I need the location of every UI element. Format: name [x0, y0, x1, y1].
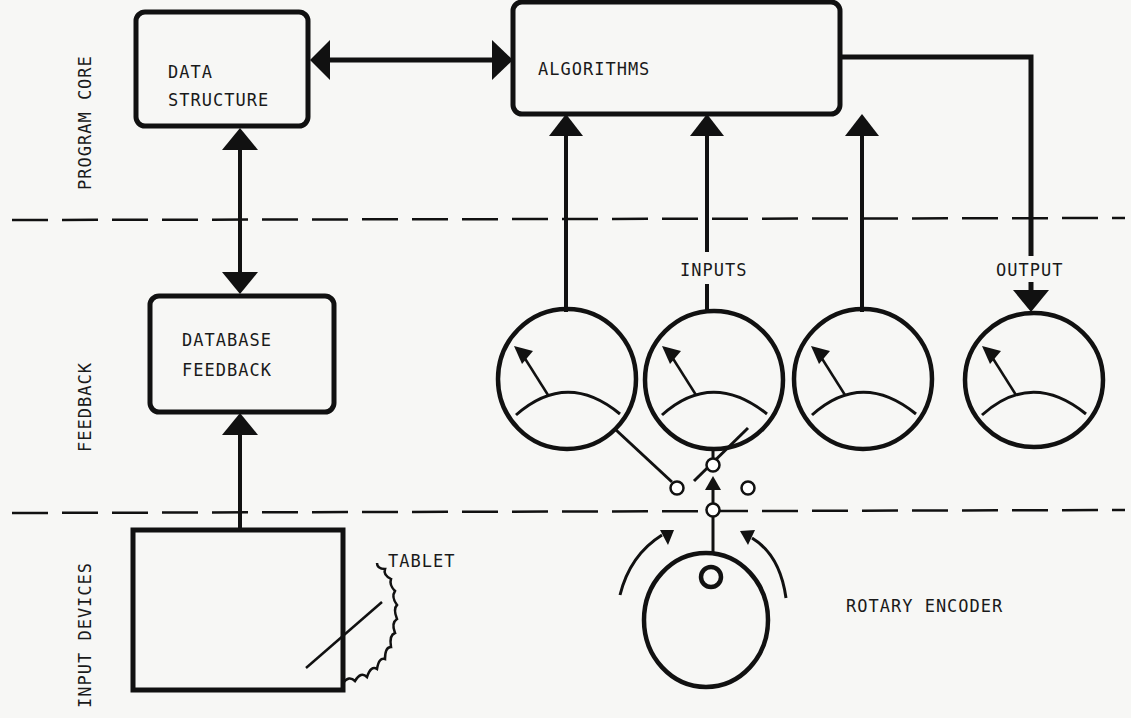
layer-label-feedback: FEEDBACK [75, 362, 95, 452]
rotary-encoder-label: ROTARY ENCODER [846, 596, 1003, 616]
output-label: OUTPUT [996, 260, 1063, 280]
arrowhead-up-icon [222, 128, 258, 150]
data-structure-box: DATA STRUCTURE [136, 12, 308, 126]
layer-divider-top [12, 218, 1125, 220]
algorithms-box: ALGORITHMS [513, 2, 840, 114]
data-structure-line2: STRUCTURE [168, 90, 269, 110]
tablet-device: TABLET [133, 530, 455, 690]
data-structure-line1: DATA [168, 62, 213, 82]
ds-alg-bidirectional-arrow [310, 40, 513, 80]
arrowhead-up-icon [705, 476, 721, 490]
arrowhead-right-icon [492, 40, 513, 80]
database-feedback-line2: FEEDBACK [182, 360, 272, 380]
arrowhead-up-icon [845, 114, 879, 136]
layer-label-program-core: PROGRAM CORE [75, 55, 95, 190]
needle-icon [982, 346, 1001, 364]
inputs-label: INPUTS [680, 260, 747, 280]
arrowhead-up-icon [549, 114, 583, 136]
input-meter-3 [794, 309, 932, 449]
rotate-ccw-arrow-icon [752, 538, 786, 598]
arrowhead-down-icon [222, 272, 258, 294]
arrowhead-left-icon [310, 40, 330, 80]
arrowhead-up-icon [690, 114, 724, 136]
rotary-encoder: ROTARY ENCODER [620, 530, 1003, 687]
layer-divider-bottom [12, 510, 1125, 513]
database-feedback-line1: DATABASE [182, 330, 272, 350]
input-meter-2 [645, 311, 783, 449]
needle-icon [662, 346, 681, 364]
arrowhead-icon [660, 530, 674, 545]
input-arrows [549, 114, 879, 312]
layer-label-input-devices: INPUT DEVICES [75, 562, 95, 708]
needle-icon [514, 346, 533, 364]
rotate-cw-arrow-icon [620, 535, 662, 595]
ds-db-bidirectional-arrow [222, 128, 258, 294]
needle-icon [811, 346, 830, 364]
system-diagram: PROGRAM CORE FEEDBACK INPUT DEVICES DATA… [0, 0, 1131, 718]
algorithms-label: ALGORITHMS [538, 59, 650, 79]
tablet-cord-icon [343, 563, 397, 683]
tablet-label: TABLET [388, 551, 455, 571]
arrowhead-down-icon [1013, 290, 1049, 312]
arrowhead-up-icon [222, 413, 258, 435]
output-meter [965, 313, 1103, 447]
database-feedback-box: DATABASE FEEDBACK [150, 296, 334, 412]
input-meter-1 [498, 309, 636, 449]
